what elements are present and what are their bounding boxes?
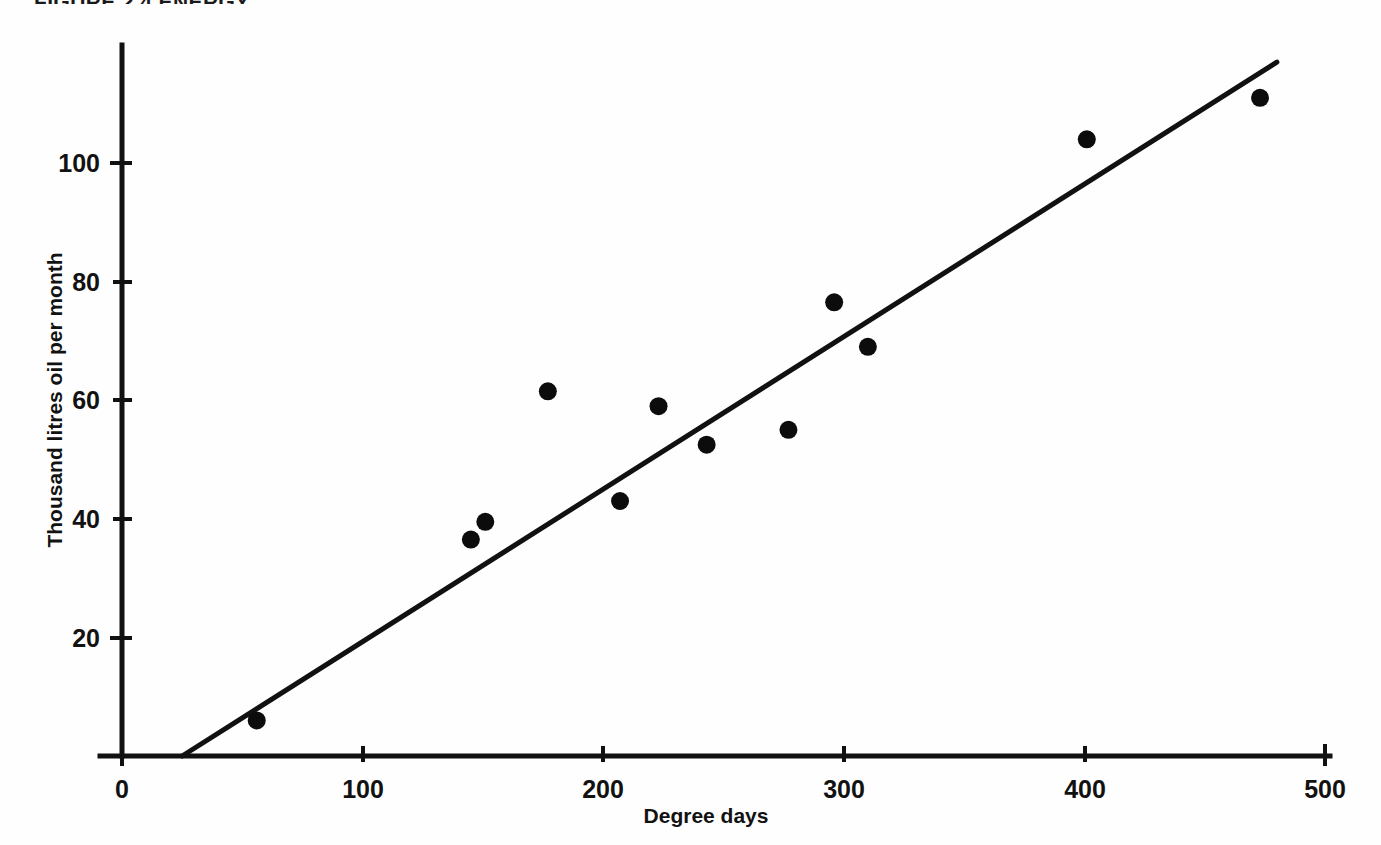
- x-tick-label-300: 300: [823, 775, 865, 803]
- x-tick-label-400: 400: [1064, 775, 1106, 803]
- data-point: [1078, 130, 1096, 148]
- figure-page: FIGURE 2.4 ENERGY 100 80 60 40 20: [0, 0, 1381, 845]
- data-points-group: [248, 89, 1269, 730]
- data-point: [611, 492, 629, 510]
- y-axis-title: Thousand litres oil per month: [43, 252, 66, 547]
- data-point: [476, 513, 494, 531]
- y-tick-label-20: 20: [72, 624, 100, 652]
- data-point: [650, 397, 668, 415]
- y-tick-label-60: 60: [72, 386, 100, 414]
- x-tick-label-200: 200: [582, 775, 624, 803]
- data-point: [248, 711, 266, 729]
- x-tick-label-100: 100: [342, 775, 384, 803]
- y-tick-label-100: 100: [58, 149, 100, 177]
- scatter-plot: 100 80 60 40 20 0 100 200 300 400 500 De…: [0, 0, 1381, 845]
- x-tick-label-500: 500: [1304, 775, 1346, 803]
- x-tick-label-0: 0: [115, 775, 129, 803]
- data-point: [825, 293, 843, 311]
- x-axis-title: Degree days: [644, 804, 769, 827]
- data-point: [1251, 89, 1269, 107]
- regression-line: [182, 62, 1277, 756]
- y-tick-label-80: 80: [72, 268, 100, 296]
- data-point: [698, 436, 716, 454]
- data-point: [779, 421, 797, 439]
- data-point: [859, 338, 877, 356]
- data-point: [462, 531, 480, 549]
- data-point: [539, 382, 557, 400]
- y-tick-label-40: 40: [72, 505, 100, 533]
